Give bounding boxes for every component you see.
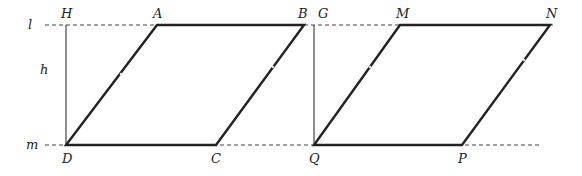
- label-N: N: [545, 6, 558, 21]
- label-H: H: [60, 6, 73, 21]
- label-l: l: [28, 17, 32, 32]
- label-Q: Q: [309, 151, 320, 166]
- diagram-canvas: l m h H A B G M N D C Q P: [0, 0, 582, 176]
- label-M: M: [395, 6, 410, 21]
- label-P: P: [457, 151, 467, 166]
- label-m: m: [26, 137, 38, 152]
- tick-mark-BC: [272, 66, 275, 69]
- geometry-diagram: l m h H A B G M N D C Q P: [0, 0, 582, 176]
- parallelogram-MNPQ: [314, 25, 550, 145]
- label-D: D: [61, 151, 73, 166]
- label-G: G: [318, 6, 328, 21]
- parallelogram-ABCD: [66, 25, 304, 145]
- label-B: B: [297, 6, 308, 21]
- label-C: C: [211, 151, 221, 166]
- label-A: A: [152, 6, 162, 21]
- tick-mark-MQ: [369, 66, 372, 69]
- tick-mark-NP: [523, 59, 526, 62]
- label-h: h: [40, 62, 48, 77]
- tick-mark-AD: [120, 73, 123, 76]
